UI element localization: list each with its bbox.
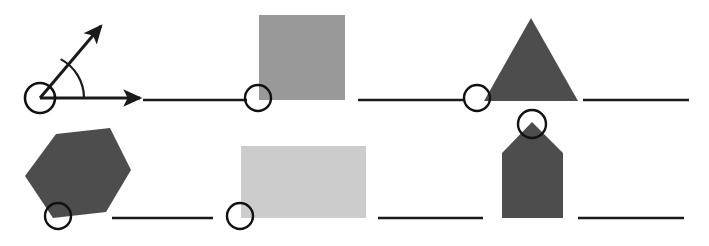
- rectangle-shape: [241, 146, 366, 218]
- figure-canvas: [0, 0, 709, 246]
- square-shape: [259, 15, 345, 100]
- figure-svg: [0, 0, 709, 246]
